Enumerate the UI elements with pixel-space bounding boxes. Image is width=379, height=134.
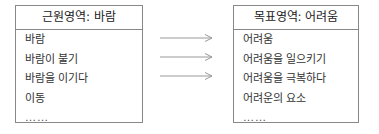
source-item: 바람 [25,30,142,50]
target-item: 어려움을 극복하다 [243,69,358,89]
mapping-arrow [160,54,212,61]
source-item: 바람이 불기 [25,50,142,70]
target-domain-title: 목표영역: 어려움 [234,6,358,30]
source-domain-title: 근원영역: 바람 [16,6,142,30]
source-item: 이동 [25,89,142,109]
source-item-ellipsis: …… [25,108,142,128]
mapping-arrow [160,35,212,42]
target-item: 어려운의 요소 [243,89,358,109]
mapping-arrow [160,73,212,80]
target-item: 어려움 [243,30,358,50]
source-domain-list: 바람 바람이 불기 바람을 이기다 이동 …… [16,30,142,128]
target-domain-list: 어려움 어려움을 일으키기 어려움을 극복하다 어려운의 요소 …… [234,30,358,128]
target-item-ellipsis: …… [243,108,358,128]
target-domain-box: 목표영역: 어려움 어려움 어려움을 일으키기 어려움을 극복하다 어려운의 요… [233,5,359,123]
source-domain-box: 근원영역: 바람 바람 바람이 불기 바람을 이기다 이동 …… [15,5,143,123]
source-item: 바람을 이기다 [25,69,142,89]
target-item: 어려움을 일으키기 [243,50,358,70]
